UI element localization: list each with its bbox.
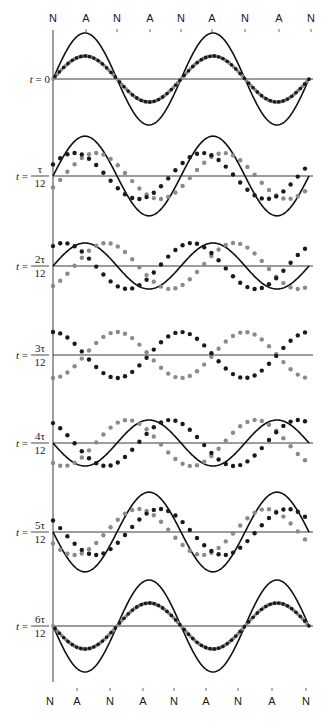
fraction-numerator: 4τ bbox=[35, 430, 46, 442]
backward-wave-dot bbox=[72, 461, 76, 465]
forward-wave-dot bbox=[122, 85, 126, 89]
forward-wave-dot bbox=[83, 647, 87, 651]
forward-wave-dot bbox=[245, 539, 249, 543]
forward-wave-dot bbox=[174, 83, 178, 87]
backward-wave-dot bbox=[195, 168, 199, 172]
backward-wave-dot bbox=[123, 512, 127, 516]
backward-wave-dot bbox=[159, 284, 163, 288]
fraction-denominator: 12 bbox=[35, 533, 46, 545]
forward-wave-dot bbox=[157, 604, 161, 608]
backward-wave-dot bbox=[80, 256, 84, 260]
forward-wave-dot bbox=[94, 553, 98, 557]
forward-wave-dot bbox=[130, 448, 134, 452]
backward-wave-dot bbox=[231, 431, 235, 435]
backward-wave-dot bbox=[94, 541, 98, 545]
node-label: N bbox=[113, 12, 121, 24]
backward-wave-dot bbox=[260, 507, 264, 511]
forward-wave-dot bbox=[290, 607, 294, 611]
forward-wave-dot bbox=[137, 517, 141, 521]
forward-wave-dot bbox=[187, 69, 191, 73]
forward-wave-dot bbox=[188, 332, 192, 336]
forward-wave-dot bbox=[238, 546, 242, 550]
forward-wave-dot bbox=[130, 370, 134, 374]
forward-wave-dot bbox=[273, 601, 277, 605]
forward-wave-dot bbox=[65, 152, 69, 156]
forward-wave-dot bbox=[58, 426, 62, 430]
forward-wave-dot bbox=[212, 54, 216, 58]
forward-wave-dot bbox=[159, 262, 163, 266]
backward-wave-dot bbox=[130, 257, 134, 261]
forward-wave-dot bbox=[116, 186, 120, 190]
forward-wave-dot bbox=[274, 510, 278, 514]
forward-wave-dot bbox=[245, 285, 249, 289]
forward-wave-dot bbox=[281, 99, 285, 103]
snapshot-row: t = 0 bbox=[30, 33, 313, 125]
forward-wave-dot bbox=[144, 511, 148, 515]
forward-wave-dot bbox=[290, 94, 294, 98]
forward-wave-dot bbox=[108, 375, 112, 379]
backward-wave-dot bbox=[252, 173, 256, 177]
forward-wave-dot bbox=[137, 363, 141, 367]
backward-wave-dot bbox=[252, 251, 256, 255]
snapshot-row: t =4τ12 bbox=[16, 418, 313, 468]
forward-wave-dot bbox=[108, 547, 112, 551]
backward-wave-dot bbox=[152, 358, 156, 362]
forward-wave-dot bbox=[288, 507, 292, 511]
backward-wave-dot bbox=[303, 537, 307, 541]
fraction-denominator: 12 bbox=[35, 177, 46, 189]
backward-wave-dot bbox=[260, 337, 264, 341]
backward-wave-dot bbox=[296, 529, 300, 533]
backward-wave-dot bbox=[58, 178, 62, 182]
backward-wave-dot bbox=[260, 419, 264, 423]
forward-wave-dot bbox=[72, 244, 76, 248]
snapshot-row: t =τ12 bbox=[16, 136, 313, 216]
forward-wave-dot bbox=[87, 456, 91, 460]
forward-wave-dot bbox=[137, 283, 141, 287]
backward-wave-dot bbox=[173, 457, 177, 461]
backward-wave-dot bbox=[303, 286, 307, 290]
backward-wave-dot bbox=[216, 546, 220, 550]
backward-wave-dot bbox=[101, 533, 105, 537]
fraction-denominator: 12 bbox=[35, 627, 46, 639]
backward-wave-dot bbox=[224, 151, 228, 155]
forward-wave-dot bbox=[298, 87, 302, 91]
backward-wave-dot bbox=[195, 270, 199, 274]
forward-wave-dot bbox=[188, 428, 192, 432]
backward-wave-dot bbox=[152, 196, 156, 200]
backward-wave-dot bbox=[94, 341, 98, 345]
antinode-label: A bbox=[139, 695, 147, 707]
forward-wave-dot bbox=[130, 525, 134, 529]
backward-wave-dot bbox=[65, 272, 69, 276]
backward-wave-dot bbox=[166, 371, 170, 375]
forward-wave-dot bbox=[109, 631, 113, 635]
forward-wave-dot bbox=[187, 632, 191, 636]
forward-wave-dot bbox=[169, 614, 173, 618]
fraction-numerator: 2τ bbox=[35, 253, 46, 265]
forward-wave-dot bbox=[174, 618, 178, 622]
backward-wave-dot bbox=[72, 162, 76, 166]
forward-wave-dot bbox=[80, 249, 84, 253]
backward-wave-dot bbox=[51, 541, 55, 545]
forward-wave-dot bbox=[113, 626, 117, 630]
backward-wave-dot bbox=[267, 188, 271, 192]
forward-wave-dot bbox=[101, 551, 105, 555]
forward-wave-dot bbox=[195, 435, 199, 439]
backward-wave-dot bbox=[224, 339, 228, 343]
backward-wave-dot bbox=[123, 250, 127, 254]
forward-wave-dot bbox=[165, 610, 169, 614]
forward-wave-dot bbox=[202, 543, 206, 547]
forward-wave-dot bbox=[202, 343, 206, 347]
forward-wave-dot bbox=[139, 603, 143, 607]
forward-wave-dot bbox=[195, 152, 199, 156]
forward-wave-dot bbox=[267, 362, 271, 366]
backward-wave-dot bbox=[245, 420, 249, 424]
backward-wave-dot bbox=[159, 197, 163, 201]
backward-wave-dot bbox=[288, 367, 292, 371]
backward-wave-dot bbox=[108, 241, 112, 245]
forward-wave-dot bbox=[108, 279, 112, 283]
backward-wave-dot bbox=[123, 171, 127, 175]
forward-wave-dot bbox=[123, 455, 127, 459]
forward-wave-dot bbox=[130, 196, 134, 200]
forward-wave-dot bbox=[216, 258, 220, 262]
backward-wave-dot bbox=[130, 336, 134, 340]
